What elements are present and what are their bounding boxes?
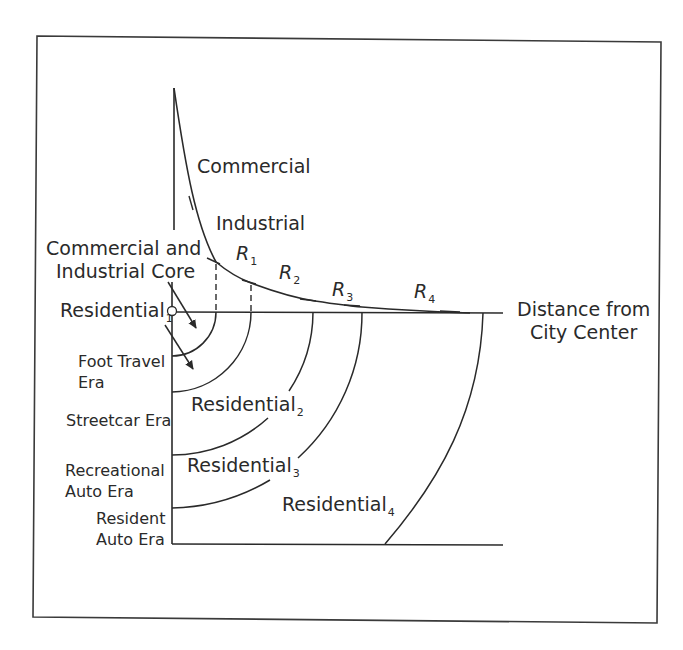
label-core: Commercial and Industrial Core xyxy=(46,237,201,283)
bottom-baseline xyxy=(172,544,503,545)
label-era-foot-travel-line1: Foot Travel xyxy=(78,351,165,372)
label-residential-4-sub: 4 xyxy=(388,506,395,519)
zone-arc-5 xyxy=(385,313,483,544)
label-r3: R3 xyxy=(332,279,353,305)
label-era-streetcar: Streetcar Era xyxy=(66,412,171,430)
label-core-line2: Industrial Core xyxy=(46,260,201,283)
diagram-canvas: Commercial Industrial R1 R2 R3 R4 Commer… xyxy=(0,0,683,650)
curve-tick-r1 xyxy=(242,280,256,284)
label-r3-base: R xyxy=(332,278,345,300)
label-era-resident-auto: Resident Auto Era xyxy=(96,508,165,550)
curve-tick-r2 xyxy=(300,299,316,301)
label-era-foot-travel-line2: Era xyxy=(78,372,165,393)
label-residential-3: Residential3 xyxy=(187,455,300,481)
label-era-recreational-auto: Recreational Auto Era xyxy=(65,460,165,502)
label-residential-2-base: Residential xyxy=(191,393,296,415)
label-era-foot-travel: Foot Travel Era xyxy=(78,351,165,393)
curve-tick-r4 xyxy=(440,311,460,312)
core-arrow-2 xyxy=(165,325,193,369)
label-residential-1: Residential1 xyxy=(60,300,173,326)
label-r2: R2 xyxy=(279,262,300,288)
label-residential-3-base: Residential xyxy=(187,454,292,476)
label-r4-sub: 4 xyxy=(428,293,435,306)
label-r4: R4 xyxy=(414,281,435,307)
curve-tick-r3 xyxy=(344,305,360,306)
label-commercial: Commercial xyxy=(197,156,311,178)
zone-arc-1 xyxy=(172,312,216,356)
label-residential-2-sub: 2 xyxy=(297,406,304,419)
label-distance-line1: Distance from xyxy=(517,298,650,321)
zone-arc-2 xyxy=(172,312,251,392)
label-era-resident-auto-line2: Auto Era xyxy=(96,529,165,550)
label-core-line1: Commercial and xyxy=(46,237,201,260)
label-distance-line2: City Center xyxy=(517,321,650,344)
label-era-recreational-auto-line2: Auto Era xyxy=(65,481,165,502)
label-r1: R1 xyxy=(236,243,257,269)
label-era-resident-auto-line1: Resident xyxy=(96,508,165,529)
label-era-recreational-auto-line1: Recreational xyxy=(65,460,165,481)
label-distance-axis: Distance from City Center xyxy=(517,298,650,344)
label-residential-1-sub: 1 xyxy=(166,312,173,325)
zone-arc-4b xyxy=(172,480,270,508)
label-r1-sub: 1 xyxy=(250,255,257,268)
zone-arc-4a xyxy=(298,312,362,458)
label-residential-2: Residential2 xyxy=(191,394,304,420)
label-industrial: Industrial xyxy=(216,213,305,235)
label-r2-sub: 2 xyxy=(293,274,300,287)
zone-arc-3b xyxy=(172,418,268,455)
label-residential-1-base: Residential xyxy=(60,299,165,321)
label-r3-sub: 3 xyxy=(346,291,353,304)
label-r1-base: R xyxy=(236,242,249,264)
curve-tick-commercial xyxy=(189,196,193,210)
label-residential-3-sub: 3 xyxy=(293,467,300,480)
label-era-streetcar-line1: Streetcar Era xyxy=(66,412,171,430)
label-r2-base: R xyxy=(279,261,292,283)
zone-arc-3a xyxy=(289,312,313,391)
label-r4-base: R xyxy=(414,280,427,302)
label-residential-4-base: Residential xyxy=(282,493,387,515)
label-residential-4: Residential4 xyxy=(282,494,395,520)
